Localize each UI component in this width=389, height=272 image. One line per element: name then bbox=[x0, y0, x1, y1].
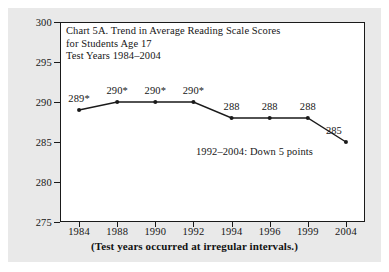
x-axis-tick-mark bbox=[308, 222, 309, 227]
x-axis-tick-mark bbox=[79, 222, 80, 227]
data-point-label: 290* bbox=[183, 85, 204, 96]
y-axis: 275280285290295300 bbox=[18, 0, 52, 272]
data-point-label: 289* bbox=[68, 93, 89, 104]
y-axis-tick-mark bbox=[54, 222, 60, 223]
data-point-label: 288 bbox=[300, 101, 316, 112]
y-axis-tick-mark bbox=[54, 142, 60, 143]
y-axis-tick-mark bbox=[54, 102, 60, 103]
data-point-label: 288 bbox=[262, 101, 278, 112]
x-axis-tick-mark bbox=[270, 222, 271, 227]
y-axis-tick-label: 300 bbox=[22, 17, 52, 28]
x-axis-tick-mark bbox=[155, 222, 156, 227]
data-point-label: 288 bbox=[224, 101, 240, 112]
x-axis-tick-mark bbox=[232, 222, 233, 227]
data-point-label: 285 bbox=[326, 125, 342, 136]
x-axis-tick-label: 2004 bbox=[324, 226, 368, 237]
y-axis-tick-label: 280 bbox=[22, 177, 52, 188]
y-axis-tick-label: 295 bbox=[22, 57, 52, 68]
x-axis-tick-mark bbox=[117, 222, 118, 227]
y-axis-tick-label: 290 bbox=[22, 97, 52, 108]
chart-title: Chart 5A. Trend in Average Reading Scale… bbox=[66, 25, 362, 63]
x-axis-tick-mark bbox=[346, 222, 347, 227]
chart-footnote: (Test years occurred at irregular interv… bbox=[0, 240, 389, 252]
data-point-label: 290* bbox=[145, 85, 166, 96]
data-point-label: 290* bbox=[106, 85, 127, 96]
y-axis-tick-mark bbox=[54, 182, 60, 183]
y-axis-tick-label: 285 bbox=[22, 137, 52, 148]
x-axis-tick-mark bbox=[193, 222, 194, 227]
chart-screenshot: Chart 5A. Trend in Average Reading Scale… bbox=[0, 0, 389, 272]
y-axis-tick-label: 275 bbox=[22, 217, 52, 228]
y-axis-tick-mark bbox=[54, 22, 60, 23]
y-axis-tick-mark bbox=[54, 62, 60, 63]
trend-annotation: 1992–2004: Down 5 points bbox=[196, 146, 313, 157]
